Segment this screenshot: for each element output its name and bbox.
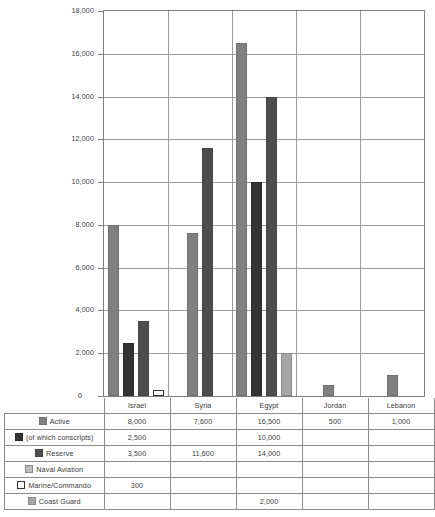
- bar: [202, 148, 213, 396]
- table-header-jordan: Jordan: [302, 398, 368, 414]
- table-header-israel: Israel: [104, 398, 170, 414]
- table-cell: [302, 430, 368, 446]
- table-cell: 16,500: [236, 414, 302, 430]
- table-cell: [236, 478, 302, 494]
- table-cell: [368, 446, 434, 462]
- table-cell: [170, 478, 236, 494]
- bar: [251, 182, 262, 396]
- bar: [236, 43, 247, 396]
- legend-row-label: Coast Guard: [5, 494, 105, 510]
- table-cell: 300: [104, 478, 170, 494]
- legend-swatch-icon: [39, 417, 47, 425]
- table-row: Marine/Commando300: [5, 478, 435, 494]
- legend-swatch-icon: [15, 433, 23, 441]
- legend-label-text: (of which conscripts): [26, 433, 94, 442]
- legend-label-text: Active: [50, 417, 70, 426]
- legend-label-text: Reserve: [46, 449, 73, 458]
- bar: [323, 385, 334, 396]
- y-axis-tick-label: 4,000: [50, 306, 94, 314]
- category-group-syria: [168, 11, 232, 396]
- table-cell: 3,500: [104, 446, 170, 462]
- legend-label-text: Marine/Commando: [28, 481, 91, 490]
- table-header-egypt: Egypt: [236, 398, 302, 414]
- table-cell: [302, 446, 368, 462]
- legend-swatch-icon: [35, 449, 43, 457]
- table-cell: [368, 494, 434, 510]
- table-header-lebanon: Lebanon: [368, 398, 434, 414]
- table-cell: [236, 462, 302, 478]
- legend-label-text: Coast Guard: [39, 497, 81, 506]
- y-axis-tick-label: 16,000: [50, 50, 94, 58]
- category-group-lebanon: [360, 11, 424, 396]
- legend-label-text: Naval Aviation: [36, 465, 83, 474]
- table-header-syria: Syria: [170, 398, 236, 414]
- legend-row-label: Marine/Commando: [5, 478, 105, 494]
- table-row: Naval Aviation: [5, 462, 435, 478]
- table-cell: [104, 494, 170, 510]
- table-cell: 10,000: [236, 430, 302, 446]
- bar: [108, 225, 119, 396]
- table-row: Coast Guard2,000: [5, 494, 435, 510]
- bar: [123, 343, 134, 396]
- table-cell: [368, 462, 434, 478]
- legend-row-label: Active: [5, 414, 105, 430]
- table-cell: [302, 478, 368, 494]
- category-group-jordan: [296, 11, 360, 396]
- bar: [187, 233, 198, 396]
- table-cell: 14,000: [236, 446, 302, 462]
- y-axis-tick-label: 2,000: [50, 349, 94, 357]
- bar-chart: 18,00016,00014,00012,00010,0008,0006,000…: [0, 0, 432, 408]
- table-row: Active8,0007,60016,5005001,000: [5, 414, 435, 430]
- table-header-row: IsraelSyriaEgyptJordanLebanon: [5, 398, 435, 414]
- table-cell: [368, 430, 434, 446]
- legend-row-label: (of which conscripts): [5, 430, 105, 446]
- table-cell: [368, 478, 434, 494]
- table-cell: 2,500: [104, 430, 170, 446]
- bar: [153, 390, 164, 396]
- bar: [266, 97, 277, 396]
- data-table-wrapper: IsraelSyriaEgyptJordanLebanonActive8,000…: [4, 398, 428, 510]
- y-axis-tick-label: 12,000: [50, 135, 94, 143]
- plot-area: [103, 10, 425, 397]
- plot-inner: [104, 11, 424, 396]
- table-cell: [104, 462, 170, 478]
- legend-swatch-icon: [25, 465, 33, 473]
- table-cell: 8,000: [104, 414, 170, 430]
- category-group-israel: [104, 11, 168, 396]
- table-cell: [302, 462, 368, 478]
- table-cell: 7,600: [170, 414, 236, 430]
- y-axis-tick-label: 8,000: [50, 221, 94, 229]
- table-cell: [170, 430, 236, 446]
- table-cell: 2,000: [236, 494, 302, 510]
- table-cell: 11,600: [170, 446, 236, 462]
- table-row: Reserve3,50011,60014,000: [5, 446, 435, 462]
- y-axis-labels: 18,00016,00014,00012,00010,0008,0006,000…: [44, 0, 94, 408]
- table-cell: [170, 462, 236, 478]
- category-group-egypt: [232, 11, 296, 396]
- legend-swatch-icon: [17, 481, 25, 489]
- bar: [281, 353, 292, 396]
- y-axis-tick-label: 14,000: [50, 93, 94, 101]
- bar: [138, 321, 149, 396]
- table-cell: 1,000: [368, 414, 434, 430]
- table-cell: [170, 494, 236, 510]
- table-row: (of which conscripts)2,50010,000: [5, 430, 435, 446]
- bar: [387, 375, 398, 396]
- data-table: IsraelSyriaEgyptJordanLebanonActive8,000…: [4, 398, 435, 510]
- table-cell: [302, 494, 368, 510]
- y-axis-tick-label: 18,000: [50, 7, 94, 15]
- table-cell: 500: [302, 414, 368, 430]
- legend-swatch-icon: [28, 497, 36, 505]
- legend-row-label: Naval Aviation: [5, 462, 105, 478]
- y-axis-tick-label: 10,000: [50, 178, 94, 186]
- y-axis-tick-label: 6,000: [50, 264, 94, 272]
- legend-row-label: Reserve: [5, 446, 105, 462]
- table-header-blank: [5, 398, 105, 414]
